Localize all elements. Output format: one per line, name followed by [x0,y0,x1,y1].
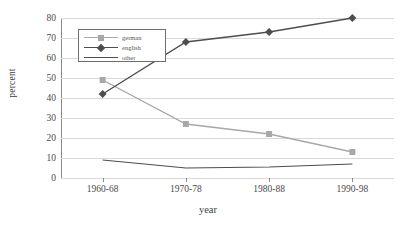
y-tick-label: 10 [30,153,56,163]
legend-label: german [122,33,142,42]
legend-item-german: german [79,33,165,42]
y-axis-title: percent [7,53,17,113]
legend-square-marker-icon [98,35,104,41]
y-tick-label: 80 [30,13,56,23]
x-tick-mark [186,178,187,182]
series-line-german [103,80,353,152]
y-tick-label: 0 [30,173,56,183]
legend-line-icon [84,57,118,58]
data-point-english [182,38,190,46]
series-line-other [103,160,353,168]
y-tick-label: 50 [30,73,56,83]
data-point-german [349,149,355,155]
x-tick-label: 1970-78 [170,184,202,194]
gridline [61,178,394,179]
chart-legend: germanenglishother [78,29,166,62]
x-tick-label: 1960-68 [87,184,119,194]
line-chart: percent 01020304050607080 1960-681970-78… [0,0,416,233]
y-axis-tick-labels: 01020304050607080 [30,18,56,178]
x-tick-label: 1980-88 [253,184,285,194]
legend-item-other: other [79,53,165,62]
legend-label: english [122,43,141,52]
data-point-german [100,77,106,83]
legend-diamond-marker-icon [97,43,105,51]
y-tick-label: 20 [30,133,56,143]
series-other [103,160,353,168]
x-tick-mark [269,178,270,182]
data-point-english [348,14,356,22]
data-point-german [183,121,189,127]
legend-item-english: english [79,43,165,52]
x-tick-mark [352,178,353,182]
series-german [100,77,356,155]
y-tick-label: 60 [30,53,56,63]
y-tick-label: 30 [30,113,56,123]
data-point-german [266,131,272,137]
legend-label: other [122,53,135,62]
y-tick-label: 40 [30,93,56,103]
legend-swatch-german [84,33,118,42]
legend-swatch-other [84,53,118,62]
x-tick-mark [103,178,104,182]
legend-swatch-english [84,43,118,52]
data-point-english [99,90,107,98]
x-axis-title: year [0,204,416,215]
data-point-english [265,28,273,36]
x-tick-label: 1990-98 [337,184,369,194]
y-tick-label: 70 [30,33,56,43]
